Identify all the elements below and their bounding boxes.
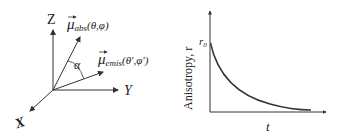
absorption-subscript: abs bbox=[75, 23, 88, 33]
x-axis-title: t bbox=[266, 119, 270, 134]
r0-label: r0 bbox=[199, 35, 207, 49]
anisotropy-decay-curve bbox=[211, 43, 312, 110]
emission-args: (θ',φ') bbox=[122, 54, 149, 67]
y-axis-label: Y bbox=[124, 83, 134, 98]
emission-vector-label: μemis(θ',φ') bbox=[97, 51, 149, 68]
coordinate-diagram: Z Y X μabs(θ,φ) μemis(θ',φ') α bbox=[12, 12, 149, 132]
absorption-args: (θ,φ) bbox=[87, 19, 109, 32]
x-axis bbox=[30, 90, 53, 111]
svg-text:μabs(θ,φ): μabs(θ,φ) bbox=[66, 16, 109, 33]
angle-label: α bbox=[74, 58, 81, 72]
y-axis-title: Anisotropy, r bbox=[181, 47, 195, 110]
emission-subscript: emis bbox=[106, 58, 123, 68]
svg-text:μemis(θ',φ'): μemis(θ',φ') bbox=[97, 51, 149, 68]
figure-canvas: Z Y X μabs(θ,φ) μemis(θ',φ') α bbox=[0, 0, 340, 137]
z-axis-label: Z bbox=[47, 12, 56, 27]
anisotropy-chart: r0 Anisotropy, r t bbox=[181, 11, 326, 134]
x-axis-label: X bbox=[12, 114, 27, 132]
absorption-vector-label: μabs(θ,φ) bbox=[66, 16, 109, 33]
